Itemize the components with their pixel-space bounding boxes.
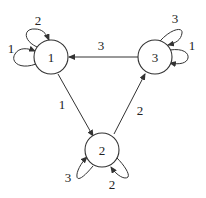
self-loop-node3-right: 1 — [170, 38, 195, 64]
edge-label-3-to-1: 3 — [98, 38, 105, 53]
loop-label: 3 — [65, 170, 72, 185]
node-label: 1 — [48, 50, 55, 65]
loop-label: 3 — [172, 11, 179, 26]
edge-3-to-1: 3 — [69, 38, 138, 57]
node-label: 2 — [99, 143, 106, 158]
loop-label: 1 — [189, 38, 196, 53]
edge-label-2-to-3: 2 — [137, 103, 144, 118]
loop-label: 2 — [109, 177, 116, 192]
node-1: 1 — [34, 40, 68, 74]
node-2: 2 — [85, 133, 119, 167]
edge-1-to-2: 1 — [58, 74, 93, 136]
edge-2-to-3: 2 — [114, 74, 145, 134]
self-loop-node1-left: 1 — [8, 41, 36, 66]
loop-label: 1 — [8, 41, 15, 56]
node-3: 3 — [138, 40, 172, 74]
node-label: 3 — [152, 50, 159, 65]
loop-label: 2 — [35, 13, 42, 28]
self-loop-node3-top-right: 3 — [160, 11, 182, 45]
edge-label-1-to-2: 1 — [59, 97, 66, 112]
state-diagram: 3 1 2 1 2 3 1 3 2 1 3 — [0, 0, 206, 198]
